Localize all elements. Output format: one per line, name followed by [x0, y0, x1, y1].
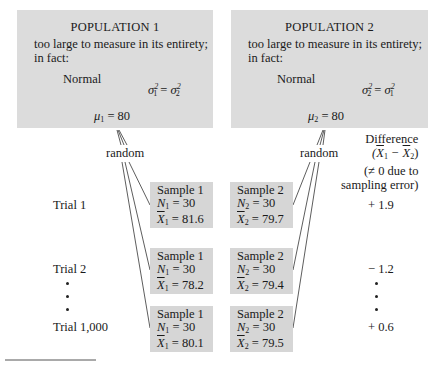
- trial-1000-sample-2: Sample 2 N2 = 30 X2 = 79.5: [230, 306, 293, 352]
- trial-label-2: Trial 2: [53, 262, 86, 277]
- ellipsis-dot: [66, 295, 69, 298]
- trial-1-difference: + 1.9: [368, 198, 394, 213]
- ellipsis-dot: [375, 282, 378, 285]
- ellipsis-dot: [375, 295, 378, 298]
- population-1-box: POPULATION 1 too large to measure in its…: [17, 10, 213, 128]
- population-1-distribution: Normal: [63, 72, 101, 87]
- trial-1000-sample-1: Sample 1 N1 = 30 X1 = 80.1: [150, 306, 213, 352]
- population-2-distribution: Normal: [277, 72, 315, 87]
- population-2-mean: μ2 = 80: [308, 109, 344, 124]
- trial-label-1000: Trial 1,000: [53, 320, 108, 335]
- trial-2-sample-1: Sample 1 N1 = 30 X1 = 78.2: [150, 248, 213, 294]
- trial-1000-difference: + 0.6: [368, 320, 394, 335]
- population-1-description: too large to measure in its entirety; in…: [34, 37, 208, 65]
- population-1-variance: σ21 = σ22: [148, 82, 180, 98]
- trial-1-sample-2: Sample 2 N2 = 30 X2 = 79.7: [230, 182, 293, 228]
- population-1-title: POPULATION 1: [17, 20, 213, 35]
- random-label-1: random: [106, 146, 144, 161]
- trial-1-sample-1: Sample 1 N1 = 30 X1 = 81.6: [150, 182, 213, 228]
- population-1-mean: μ1 = 80: [94, 109, 130, 124]
- trial-2-difference: − 1.2: [368, 262, 394, 277]
- population-2-title: POPULATION 2: [231, 20, 428, 35]
- population-2-box: POPULATION 2 too large to measure in its…: [231, 10, 428, 128]
- ellipsis-dot: [66, 308, 69, 311]
- random-label-2: random: [300, 146, 338, 161]
- population-2-description: too large to measure in its entirety; in…: [248, 37, 422, 65]
- ellipsis-dot: [375, 308, 378, 311]
- ellipsis-dot: [66, 282, 69, 285]
- difference-header: Difference (X1 − X2) (≠ 0 due to samplin…: [355, 132, 418, 192]
- population-2-variance: σ22 = σ21: [362, 82, 394, 98]
- trial-label-1: Trial 1: [53, 198, 86, 213]
- trial-2-sample-2: Sample 2 N2 = 30 X2 = 79.4: [230, 248, 293, 294]
